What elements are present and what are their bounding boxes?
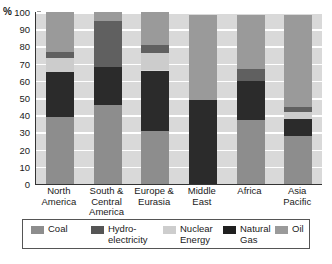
bar-segment [284,112,312,119]
bar-segment [284,15,312,106]
y-tick-label: 0 [25,180,30,189]
x-axis-label: NorthAmerica [34,186,84,207]
y-tick-label: 30 [19,128,30,137]
bar-segment [189,100,217,184]
bar-segment [94,21,122,67]
bar [237,15,265,184]
y-tick-label: 10 [19,162,30,171]
legend-label: Natural Gas [240,224,271,245]
gridline [36,64,322,66]
bar-segment [189,15,217,99]
legend-label: Nuclear Energy [180,224,213,245]
bar-segment [46,72,74,117]
legend-item[interactable]: Natural Gas [223,224,271,245]
x-axis-label: Africa [225,186,275,197]
bar-segment [46,52,74,59]
bar-segment [141,131,169,184]
bar-segment [94,12,122,21]
y-tick-label: 60 [19,76,30,85]
legend-item[interactable]: Hydro- electricity [91,224,148,245]
gridline [36,98,322,100]
legend-swatch [91,226,104,234]
bar-segment [46,12,74,52]
y-tick-label: 70 [19,59,30,68]
gridline [36,46,322,48]
gridline [36,12,322,14]
y-axis-tick-labels: 1009080706050403020100 [6,12,30,184]
gridline [36,150,322,152]
bar [189,15,217,184]
gridline [36,115,322,117]
y-tick-label: 90 [19,25,30,34]
bar-segment [141,45,169,54]
legend-item[interactable]: Oil [275,224,304,235]
bar [46,12,74,184]
bar-segment [94,67,122,105]
chart-legend: CoalHydro- electricityNuclear EnergyNatu… [22,219,310,249]
bar-segment [237,15,265,68]
gridline [36,167,322,169]
stacked-bar-chart: % 1009080706050403020100 NorthAmericaSou… [0,0,332,212]
bar-segment [141,71,169,131]
legend-item[interactable]: Coal [31,224,68,235]
legend-swatch [223,226,236,234]
bar-segment [284,136,312,184]
bar-segment [46,58,74,72]
gridline [36,132,322,134]
bar [94,12,122,184]
bar-segment [94,105,122,184]
legend-swatch [163,226,176,234]
bar-segment [237,69,265,81]
plot-area [35,12,322,185]
y-tick-label: 40 [19,111,30,120]
legend-item[interactable]: Nuclear Energy [163,224,213,245]
x-axis-label: MiddleEast [177,186,227,207]
x-axis-category-labels: NorthAmericaSouth &CentralAmericaEurope … [35,186,321,214]
y-tick-label: 50 [19,94,30,103]
gridline [36,81,322,83]
legend-label: Oil [292,224,304,235]
bar [141,12,169,184]
legend-label: Coal [48,224,68,235]
bar-segment [46,117,74,184]
legend-label: Hydro- electricity [108,224,148,245]
bar-segment [141,53,169,70]
y-tick-label: 80 [19,42,30,51]
bar-segment [141,12,169,45]
legend-swatch [275,226,288,234]
x-axis-label: AsiaPacific [272,186,322,207]
gridline [36,29,322,31]
y-tick-label: 100 [14,8,30,17]
legend-swatch [31,226,44,234]
x-axis-label: South &CentralAmerica [82,186,132,218]
bar-segment [237,120,265,184]
bar-segment [284,107,312,112]
y-tick-label: 20 [19,145,30,154]
bar-segment [237,81,265,121]
bar [284,15,312,184]
x-axis-label: Europe &Eurasia [129,186,179,207]
bar-segment [284,119,312,136]
